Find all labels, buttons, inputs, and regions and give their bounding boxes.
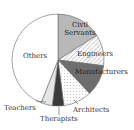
- label-civil-line1: Civil: [64, 22, 96, 29]
- label-civil-line2: Servants: [64, 30, 96, 37]
- label-others: Others: [23, 53, 47, 60]
- label-engineers: Engineers: [77, 51, 113, 58]
- label-manufacturers: Manufacturers: [75, 69, 128, 76]
- label-therapists: Therapists: [40, 116, 78, 123]
- label-civil-servants: Civil Servants: [64, 22, 96, 37]
- label-architects: Architects: [73, 107, 109, 114]
- label-teachers: Teachers: [4, 105, 36, 112]
